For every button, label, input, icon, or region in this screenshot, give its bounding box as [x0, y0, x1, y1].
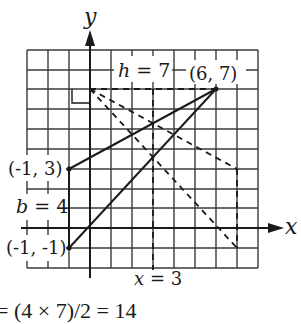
height-label: h = 7	[118, 59, 170, 81]
vertical-line-eq: = 3	[144, 268, 182, 289]
vertical-line-var: x	[134, 268, 144, 289]
y-axis-label: y	[83, 4, 97, 29]
x-axis-arrow-icon	[268, 223, 284, 233]
vertex-neg1-3	[67, 167, 72, 172]
base-var: b	[16, 195, 28, 217]
height-var: h	[118, 59, 130, 81]
point-label-neg1-neg1: (-1, -1)	[6, 237, 67, 258]
area-formula: = (4 × 7)/2 = 14	[0, 298, 137, 324]
vertex-6-7	[214, 87, 219, 92]
point-label-6-7: (6, 7)	[189, 63, 237, 84]
height-eq: = 7	[130, 59, 170, 81]
point-label-neg1-3: (-1, 3)	[8, 158, 62, 179]
x-axis-label: x	[285, 214, 298, 239]
base-label: b = 4	[16, 195, 68, 217]
y-axis-arrow-icon	[85, 30, 95, 46]
right-angle-marker	[72, 89, 90, 103]
vertex-neg1-neg1	[67, 246, 72, 251]
base-eq: = 4	[28, 195, 68, 217]
vertical-line-label: x = 3	[134, 268, 182, 289]
